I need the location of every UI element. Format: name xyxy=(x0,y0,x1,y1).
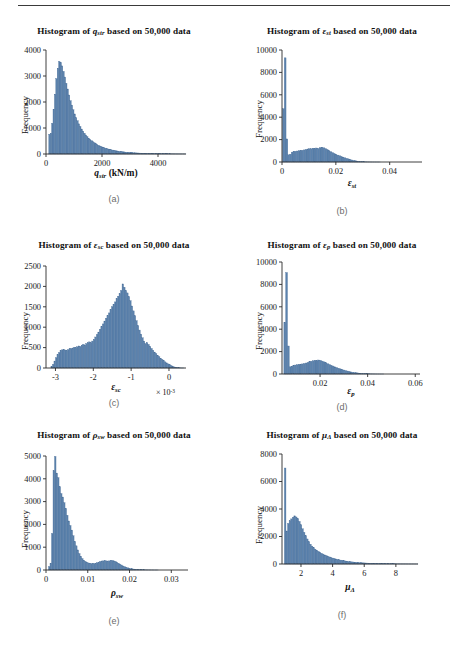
histogram-bar xyxy=(83,344,85,368)
histogram-bar xyxy=(142,338,144,368)
histogram-bar xyxy=(345,371,347,374)
histogram-bar xyxy=(286,139,288,162)
histogram-bar xyxy=(73,110,74,154)
histogram-bar xyxy=(169,365,171,368)
x-tick-label: 2 xyxy=(299,569,303,578)
histogram-bar xyxy=(55,358,57,368)
histogram-bar xyxy=(295,517,297,564)
histogram-bar xyxy=(95,144,96,154)
histogram-bar xyxy=(299,521,301,564)
x-tick-label: -2 xyxy=(90,373,97,382)
histogram-bar xyxy=(52,364,54,368)
histogram-bar xyxy=(140,334,142,368)
histogram-bar xyxy=(319,148,321,162)
histogram-bar xyxy=(99,146,100,154)
histogram-bar xyxy=(67,515,69,570)
histogram-bar xyxy=(307,149,309,162)
histogram-bar xyxy=(326,149,328,162)
histogram-bar xyxy=(314,360,316,374)
x-tick-label: 2000 xyxy=(94,159,111,168)
y-tick-label: 2000 xyxy=(24,520,41,529)
histogram-bar xyxy=(87,137,88,154)
histogram-bar xyxy=(322,554,324,564)
histogram-bar xyxy=(110,310,112,368)
histogram-bar xyxy=(49,567,51,570)
histogram-bar xyxy=(102,324,104,368)
histogram-panel-a: Histogram of qstr based on 50,000 data F… xyxy=(0,16,228,230)
histogram-bar xyxy=(296,365,298,374)
histogram-bars-b xyxy=(283,58,381,162)
histogram-bar xyxy=(89,139,90,154)
histogram-bar xyxy=(303,532,305,564)
histogram-bar xyxy=(112,150,113,154)
histogram-bar xyxy=(288,523,290,564)
histogram-bar xyxy=(101,561,103,570)
histogram-bar xyxy=(60,62,61,154)
histogram-bar xyxy=(50,133,51,154)
y-tick-label: 6000 xyxy=(260,91,277,100)
histogram-bar xyxy=(167,364,169,368)
histogram-bar xyxy=(115,561,117,570)
x-tick-label: 0.02 xyxy=(329,167,344,176)
histogram-bar xyxy=(98,145,99,154)
histogram-plot-b: 020004000600080001000000.020.04 xyxy=(228,16,456,226)
histogram-bar xyxy=(54,94,55,154)
histogram-bar xyxy=(107,316,109,368)
histogram-bar xyxy=(88,138,89,154)
histogram-bar xyxy=(76,546,78,570)
panel-caption-c: (c) xyxy=(0,398,228,408)
histogram-bar xyxy=(333,559,335,565)
histogram-bar xyxy=(311,546,313,564)
histogram-bar xyxy=(291,519,293,564)
histogram-bar xyxy=(284,58,286,162)
histogram-bar xyxy=(105,318,107,368)
histogram-bar xyxy=(330,365,332,374)
histogram-bar xyxy=(78,346,80,368)
histogram-bar xyxy=(346,158,348,162)
histogram-bar xyxy=(98,332,100,368)
histogram-bar xyxy=(122,284,124,368)
histogram-bar xyxy=(50,563,52,570)
histogram-bar xyxy=(318,551,320,564)
histogram-bar xyxy=(80,126,81,154)
histogram-bar xyxy=(61,66,62,154)
histogram-bar xyxy=(93,339,95,368)
x-tick-label: 0.06 xyxy=(408,379,423,388)
histogram-bar xyxy=(284,468,286,564)
histogram-bar xyxy=(82,559,84,570)
histogram-bar xyxy=(300,364,302,374)
histogram-bar xyxy=(59,487,61,570)
histogram-bar xyxy=(283,109,285,162)
y-tick-label: 4000 xyxy=(24,46,41,55)
x-tick-label: 0.02 xyxy=(313,379,328,388)
histogram-bar xyxy=(325,149,327,162)
histogram-bar xyxy=(113,304,115,368)
x-tick-label: 8 xyxy=(394,569,398,578)
y-tick-label: 500 xyxy=(28,343,41,352)
x-tick-label: 0.03 xyxy=(164,575,179,584)
x-tick-label: 0 xyxy=(44,575,48,584)
histogram-bar xyxy=(305,363,307,374)
x-tick-label: 0.02 xyxy=(122,575,137,584)
y-tick-label: 4000 xyxy=(24,475,41,484)
histogram-bar xyxy=(158,357,160,368)
y-tick-label: 4000 xyxy=(260,325,277,334)
histogram-bar xyxy=(70,101,71,154)
histogram-bar xyxy=(160,358,162,368)
histogram-bar xyxy=(71,105,72,154)
histogram-panel-c: Histogram of εsc based on 50,000 data Fr… xyxy=(0,230,228,420)
y-tick-label: 8000 xyxy=(260,450,277,459)
histogram-plot-f: 020004000600080002468 xyxy=(228,420,456,630)
histogram-bar xyxy=(102,147,103,154)
histogram-bar xyxy=(145,344,147,368)
histogram-bar xyxy=(109,149,110,154)
histogram-bar xyxy=(57,355,59,368)
histogram-bar xyxy=(166,363,168,368)
x-tick-label: 0.04 xyxy=(382,167,397,176)
histogram-bar xyxy=(53,471,55,570)
histogram-bar xyxy=(146,343,148,368)
panel-caption-f: (f) xyxy=(228,610,456,620)
histogram-bar xyxy=(151,348,153,368)
y-tick-label: 0 xyxy=(37,364,41,373)
panel-caption-d: (d) xyxy=(228,402,456,412)
